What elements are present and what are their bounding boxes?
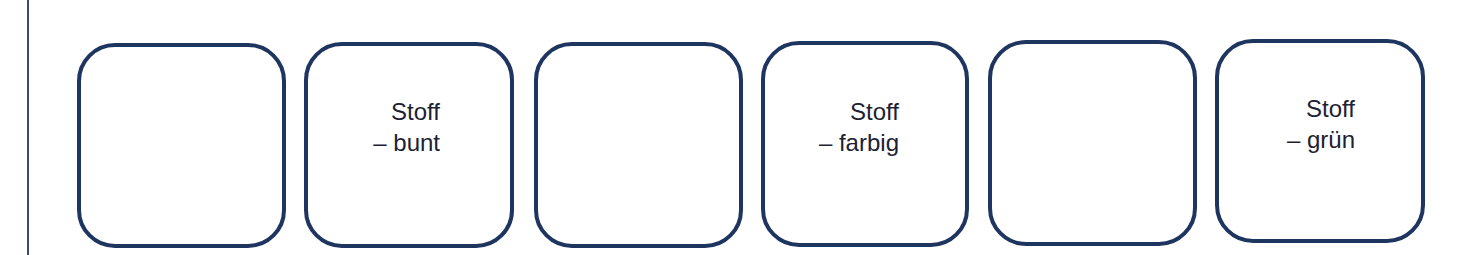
card-label: Stoff – bunt <box>373 96 440 158</box>
card-1-blank[interactable] <box>77 43 286 248</box>
card-label: Stoff – farbig <box>819 96 899 158</box>
card-2-stoff-bunt[interactable]: Stoff – bunt <box>304 42 514 248</box>
card-3-blank[interactable] <box>534 42 743 248</box>
card-label-line2: – farbig <box>819 127 899 158</box>
card-5-blank[interactable] <box>988 40 1197 246</box>
card-label-line1: Stoff <box>819 96 899 127</box>
card-label-line1: Stoff <box>1287 93 1355 124</box>
card-label: Stoff – grün <box>1287 93 1355 155</box>
card-label-line1: Stoff <box>373 96 440 127</box>
card-label-line2: – grün <box>1287 124 1355 155</box>
card-label-line2: – bunt <box>373 127 440 158</box>
card-6-stoff-gruen[interactable]: Stoff – grün <box>1215 39 1425 243</box>
card-4-stoff-farbig[interactable]: Stoff – farbig <box>761 41 969 247</box>
left-margin-rule <box>27 0 29 255</box>
